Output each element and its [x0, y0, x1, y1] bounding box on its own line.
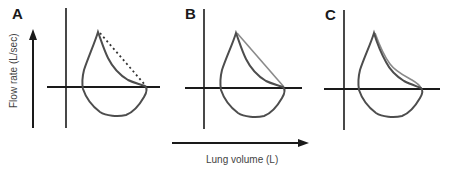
envelope-line — [375, 33, 421, 88]
flow-volume-loop — [220, 33, 284, 117]
envelope-line — [237, 33, 284, 87]
x-axis-label: Lung volume (L) — [206, 154, 278, 165]
expected-envelope-dashed — [100, 33, 146, 86]
arrow-up-icon — [29, 29, 37, 40]
flow-volume-loop — [358, 33, 422, 117]
panel-label-c: C — [325, 6, 336, 23]
panel-label-a: A — [12, 5, 23, 22]
y-axis-arrow — [29, 29, 37, 128]
flow-volume-figure: Flow rate (L/sec) Lung volume (L) A B C — [0, 0, 450, 173]
panel-c: C — [324, 6, 440, 130]
y-axis-label: Flow rate (L/sec) — [8, 34, 19, 108]
flow-volume-loop — [82, 32, 146, 116]
panel-a: A — [12, 5, 160, 128]
panel-label-b: B — [185, 5, 196, 22]
x-axis-arrow — [172, 139, 309, 147]
arrow-right-icon — [298, 139, 309, 147]
panel-b: B — [185, 5, 302, 129]
